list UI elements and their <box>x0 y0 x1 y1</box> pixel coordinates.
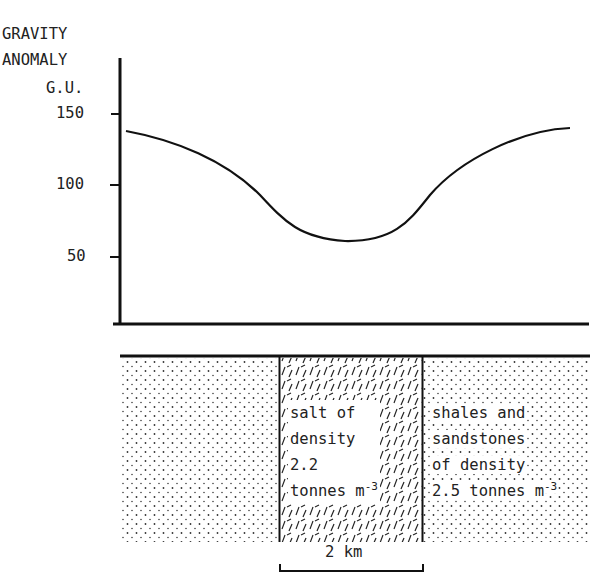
y-axis-title-line1: GRAVITY <box>2 27 67 43</box>
country-rock-exponent: -3 <box>544 480 557 493</box>
country-rock-line2: sandstones <box>432 426 557 452</box>
salt-units: tonnes m <box>290 482 365 500</box>
y-axis-title-line2: ANOMALY <box>2 53 67 69</box>
country-rock-label: shales and sandstones of density 2.5 ton… <box>430 400 559 504</box>
tick-label-50: 50 <box>67 249 86 265</box>
country-rock-line3: of density <box>432 452 557 478</box>
tick-label-150: 150 <box>56 106 84 122</box>
country-rock-line4: 2.5 tonnes m-3 <box>432 478 557 504</box>
salt-label-line1: salt of <box>290 400 378 426</box>
salt-units-exponent: -3 <box>365 480 378 493</box>
salt-label-line3: 2.2 <box>290 452 378 478</box>
salt-label-line2: density <box>290 426 378 452</box>
country-rock-text4: 2.5 tonnes m <box>432 482 544 500</box>
country-rock-text1: shales and <box>432 404 525 422</box>
salt-label: salt of density 2.2 tonnes m-3 <box>288 400 380 504</box>
salt-label-line4: tonnes m-3 <box>290 478 378 504</box>
country-rock-text2: sandstones <box>432 430 525 448</box>
y-axis-units: G.U. <box>46 81 83 97</box>
country-rock-left <box>121 358 279 542</box>
tick-label-100: 100 <box>56 177 84 193</box>
scale-bar-label: 2 km <box>325 545 362 561</box>
country-rock-text3: of density <box>432 456 525 474</box>
scale-bar <box>280 564 423 571</box>
anomaly-curve <box>126 128 570 241</box>
country-rock-line1: shales and <box>432 400 557 426</box>
